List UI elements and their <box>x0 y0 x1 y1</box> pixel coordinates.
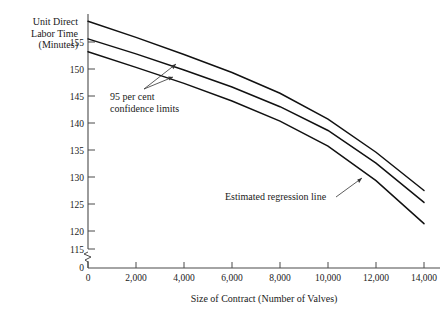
y-tick-marks <box>88 42 95 249</box>
y-tick-label-145: 145 <box>70 92 85 102</box>
y-tick-label-120: 120 <box>70 227 85 237</box>
y-axis-title-line-1: Unit Direct <box>6 16 78 28</box>
y-axis-title: Unit Direct Labor Time (Minutes) <box>6 16 78 51</box>
annotation-confidence-limits-line-1: 95 per cent <box>110 91 179 103</box>
x-tick-label-4000: 4,000 <box>173 273 195 283</box>
x-tick-marks <box>88 262 424 268</box>
x-tick-label-6000: 6,000 <box>221 273 243 283</box>
x-tick-label-10000: 10,000 <box>315 273 341 283</box>
y-tick-label-135: 135 <box>70 146 85 156</box>
x-tick-label-12000: 12,000 <box>363 273 389 283</box>
annotation-estimated-regression-line: Estimated regression line <box>225 191 326 203</box>
x-tick-label-2000: 2,000 <box>125 273 147 283</box>
x-tick-label-14000: 14,000 <box>411 273 437 283</box>
annotation-confidence-limits-line-2: confidence limits <box>110 103 179 115</box>
regression-line-leader <box>336 178 362 197</box>
y-tick-label-125: 125 <box>70 200 85 210</box>
x-tick-label-0: 0 <box>86 273 91 283</box>
series-line-estimated-regression <box>88 39 424 203</box>
y-tick-label-150: 150 <box>70 65 85 75</box>
y-tick-label-115: 115 <box>70 245 84 255</box>
x-axis-title: Size of Contract (Number of Valves) <box>191 293 338 305</box>
y-axis-title-line-3: (Minutes) <box>6 39 78 51</box>
chart-figure: 155 150 145 140 135 130 125 120 115 0 0 … <box>0 0 448 314</box>
y-tick-label-zero: 0 <box>79 263 84 273</box>
annotation-confidence-limits: 95 per cent confidence limits <box>110 91 179 115</box>
y-tick-label-140: 140 <box>70 119 85 129</box>
y-axis-title-line-2: Labor Time <box>6 28 78 40</box>
confidence-limits-leader <box>144 64 176 89</box>
y-axis-break-icon <box>84 252 91 262</box>
y-tick-label-130: 130 <box>70 173 85 183</box>
x-tick-label-8000: 8,000 <box>269 273 291 283</box>
